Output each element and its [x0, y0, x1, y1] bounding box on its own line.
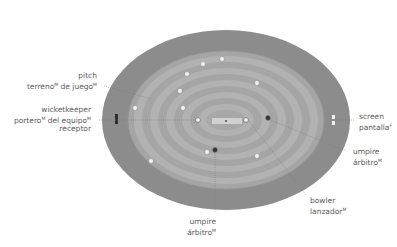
label-umpire-bottom: umpire árbitroM — [187, 218, 216, 237]
label-umpire-right-es: árbitroM — [353, 157, 382, 168]
label-pitch: pitch terrenoM de juegoM — [27, 72, 97, 91]
label-screen-en: screen — [359, 113, 392, 122]
label-umpire-bottom-en: umpire — [187, 218, 216, 227]
label-wicketkeeper-es2: receptor — [14, 125, 91, 134]
label-bowler-es: lanzadorM — [310, 206, 346, 217]
label-bowler: bowler lanzadorM — [310, 197, 346, 216]
label-pitch-es: terrenoM de juegoM — [27, 81, 97, 92]
pitch-strip — [212, 118, 242, 124]
label-umpire-right-en: umpire — [353, 148, 382, 157]
label-screen-es: pantallaF — [359, 122, 392, 133]
label-umpire-bottom-es: árbitroM — [187, 227, 216, 238]
screen-right — [332, 115, 335, 119]
label-wicketkeeper: wicketkeeper porteroM del equipoM recept… — [14, 106, 91, 134]
label-wicketkeeper-en: wicketkeeper — [14, 106, 91, 115]
label-umpire-right: umpire árbitroM — [353, 148, 382, 167]
label-bowler-en: bowler — [310, 197, 346, 206]
screen-left — [115, 114, 118, 124]
label-pitch-en: pitch — [27, 72, 97, 81]
label-screen: screen pantallaF — [359, 113, 392, 132]
